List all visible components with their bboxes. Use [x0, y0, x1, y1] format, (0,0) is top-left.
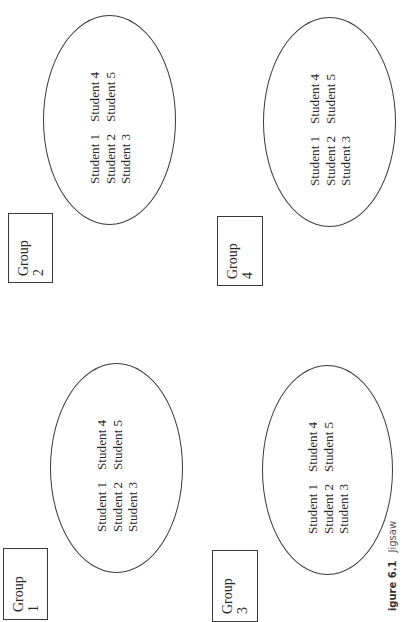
student-name: Student 2	[109, 470, 125, 532]
student-row: Student 1Student 4	[86, 56, 102, 184]
group-2-ellipse: Student 1Student 4 Student 2Student 5 St…	[43, 15, 176, 225]
group-4-student-list: Student 1Student 4 Student 2Student 5 St…	[306, 58, 353, 186]
group-3-ellipse: Student 1Student 4 Student 2Student 5 St…	[262, 365, 393, 575]
student-name: Student 2	[322, 124, 338, 186]
student-name: Student 1	[86, 122, 102, 184]
group-3-student-list: Student 1Student 4 Student 2Student 5 St…	[304, 406, 351, 534]
group-4-ellipse: Student 1Student 4 Student 2Student 5 St…	[263, 17, 396, 227]
student-row: Student 1Student 4	[306, 58, 322, 186]
figure-title: Jigsaw	[387, 521, 398, 553]
student-row: Student 2Student 5	[320, 406, 336, 534]
group-label-number: 3	[235, 558, 250, 614]
student-row: Student 3	[124, 404, 140, 532]
student-row: Student 2Student 5	[322, 58, 338, 186]
group-4-label-box: Group 4	[217, 216, 263, 286]
figure-caption: igure 6.1Jigsaw	[387, 521, 398, 611]
student-name: Student 3	[117, 122, 133, 184]
group-3-label: Group 3	[220, 558, 250, 614]
student-row: Student 1Student 4	[304, 406, 320, 534]
student-row: Student 3	[335, 406, 351, 534]
student-name: Student 1	[304, 472, 320, 534]
student-row: Student 2Student 5	[102, 56, 118, 184]
group-3-label-box: Group 3	[212, 550, 258, 622]
student-name: Student 2	[102, 122, 118, 184]
group-2-label-box: Group 2	[8, 213, 53, 283]
group-label-number: 4	[240, 223, 255, 279]
group-label-word: Group	[16, 220, 31, 276]
student-name: Student 5	[109, 420, 125, 470]
group-label-word: Group	[220, 558, 235, 614]
student-name: Student 5	[102, 72, 118, 122]
student-name: Student 4	[93, 420, 109, 470]
group-2-label: Group 2	[16, 220, 46, 276]
group-1-label-box: Group 1	[3, 548, 48, 620]
group-label-number: 1	[26, 556, 41, 612]
group-1-student-list: Student 1Student 4 Student 2Student 5 St…	[93, 404, 140, 532]
figure-number: igure 6.1	[387, 560, 398, 611]
student-name: Student 3	[335, 472, 351, 534]
student-name: Student 3	[124, 470, 140, 532]
student-name: Student 3	[337, 124, 353, 186]
group-1-ellipse: Student 1Student 4 Student 2Student 5 St…	[50, 363, 183, 573]
student-row: Student 3	[337, 58, 353, 186]
student-row: Student 3	[117, 56, 133, 184]
student-name: Student 4	[304, 422, 320, 472]
student-row: Student 1Student 4	[93, 404, 109, 532]
student-name: Student 4	[86, 72, 102, 122]
student-row: Student 2Student 5	[109, 404, 125, 532]
student-name: Student 5	[320, 422, 336, 472]
student-name: Student 1	[93, 470, 109, 532]
student-name: Student 2	[320, 472, 336, 534]
student-name: Student 4	[306, 74, 322, 124]
group-1-label: Group 1	[11, 556, 41, 612]
student-name: Student 1	[306, 124, 322, 186]
group-2-student-list: Student 1Student 4 Student 2Student 5 St…	[86, 56, 133, 184]
group-label-number: 2	[31, 220, 46, 276]
group-4-label: Group 4	[225, 223, 255, 279]
group-label-word: Group	[225, 223, 240, 279]
student-name: Student 5	[322, 74, 338, 124]
group-label-word: Group	[11, 556, 26, 612]
